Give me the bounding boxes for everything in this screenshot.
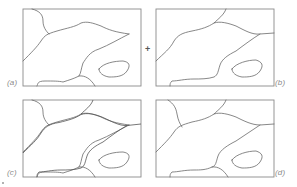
panel-d — [156, 100, 274, 177]
stray-dot — [2, 182, 4, 184]
contour-map-overlay-icon — [23, 100, 141, 177]
panel-a — [23, 9, 141, 86]
panel-d-label: (d) — [275, 168, 285, 177]
panel-b-label: (b) — [275, 78, 285, 87]
contour-map-a-icon — [23, 9, 141, 86]
plus-operator: + — [145, 44, 150, 54]
contour-map-b-icon — [156, 9, 274, 86]
contour-map-d-icon — [156, 100, 274, 177]
panel-c — [23, 100, 141, 177]
panel-b — [156, 9, 274, 86]
panel-a-label: (a) — [7, 78, 17, 87]
panel-c-label: (c) — [7, 168, 17, 177]
